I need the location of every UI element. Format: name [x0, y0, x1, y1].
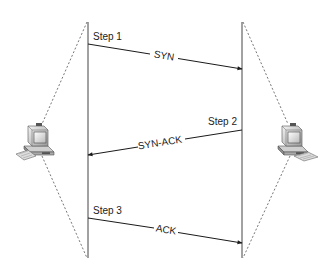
step-2-syn-ack: Step 2 SYN-ACK: [88, 116, 242, 155]
syn-ack-label: SYN-ACK: [137, 134, 183, 152]
left-desktop-computer-icon: [16, 123, 54, 160]
syn-ack-arrow-segment-1: [185, 130, 242, 139]
step-3-ack: Step 3 ACK: [88, 205, 242, 243]
syn-label: SYN: [153, 48, 175, 62]
syn-arrow-segment-1: [88, 44, 150, 54]
left-bottom-dashed-line: [42, 156, 87, 258]
left-top-dashed-line: [42, 22, 87, 124]
step-1-label: Step 1: [93, 31, 122, 42]
step-2-label: Step 2: [208, 116, 237, 127]
ack-arrow-segment-1: [88, 218, 154, 228]
right-desktop-computer-icon: [278, 123, 318, 161]
ack-label: ACK: [155, 222, 177, 236]
step-1-syn: Step 1 SYN: [88, 31, 242, 69]
tcp-handshake-diagram: Step 1 SYN Step 2 SYN-ACK Step 3 ACK: [0, 0, 332, 273]
syn-ack-arrow-segment-2: [88, 147, 138, 155]
ack-arrow-segment-2: [178, 233, 242, 244]
syn-arrow-segment-2: [178, 59, 242, 70]
step-3-label: Step 3: [93, 205, 122, 216]
right-bottom-dashed-line: [243, 156, 290, 258]
right-top-dashed-line: [243, 22, 288, 124]
